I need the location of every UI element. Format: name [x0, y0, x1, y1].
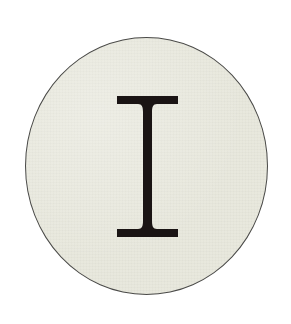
letter-i-glyph: I — [117, 96, 178, 237]
emblem-canvas: I — [0, 0, 291, 324]
serif-i-icon — [117, 96, 178, 237]
